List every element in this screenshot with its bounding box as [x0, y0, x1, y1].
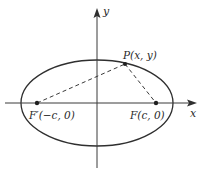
- diagram-canvas: [0, 0, 204, 174]
- segment-fprime-p: [37, 64, 125, 103]
- point-p-label: P(x, y): [123, 50, 157, 61]
- segment-p-f: [125, 64, 156, 103]
- y-axis-label: y: [103, 6, 109, 17]
- point-f-prime: [35, 101, 39, 105]
- point-p: [123, 62, 127, 66]
- ellipse-diagram: y x P(x, y) F′(−c, 0) F(c, 0): [0, 0, 204, 174]
- point-f-prime-label: F′(−c, 0): [29, 110, 75, 121]
- x-axis-label: x: [190, 108, 196, 119]
- point-f-label: F(c, 0): [130, 110, 165, 121]
- point-f: [154, 101, 158, 105]
